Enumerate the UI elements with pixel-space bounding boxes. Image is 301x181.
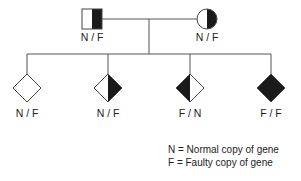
mother-genotype-label: N / F (196, 31, 219, 43)
legend-normal: N = Normal copy of gene (168, 144, 279, 155)
child-2-left-half (94, 74, 108, 102)
child-1-symbol (13, 74, 41, 102)
child-2-right-half (108, 74, 122, 102)
legend: N = Normal copy of gene F = Faulty copy … (168, 144, 279, 168)
child-4-genotype-label: F / F (260, 107, 282, 119)
father-right-half (92, 9, 102, 29)
mother-right-half (207, 9, 217, 29)
child-3-symbol (176, 74, 204, 102)
child-2-symbol (94, 74, 122, 102)
child-4-symbol (257, 74, 285, 102)
child-4-diamond (257, 74, 285, 102)
father-genotype-label: N / F (81, 31, 104, 43)
mother-symbol (197, 9, 217, 29)
father-left-half (82, 9, 92, 29)
father-symbol (82, 9, 102, 29)
child-3-genotype-label: F / N (179, 107, 202, 119)
child-2-genotype-label: N / F (97, 107, 120, 119)
child-1-diamond (13, 74, 41, 102)
legend-faulty: F = Faulty copy of gene (168, 157, 273, 168)
child-3-right-half (190, 74, 204, 102)
pedigree-diagram: N / F N / F N / F N / F F / N F / F N = … (0, 0, 301, 181)
child-3-left-half (176, 74, 190, 102)
child-1-genotype-label: N / F (16, 107, 39, 119)
